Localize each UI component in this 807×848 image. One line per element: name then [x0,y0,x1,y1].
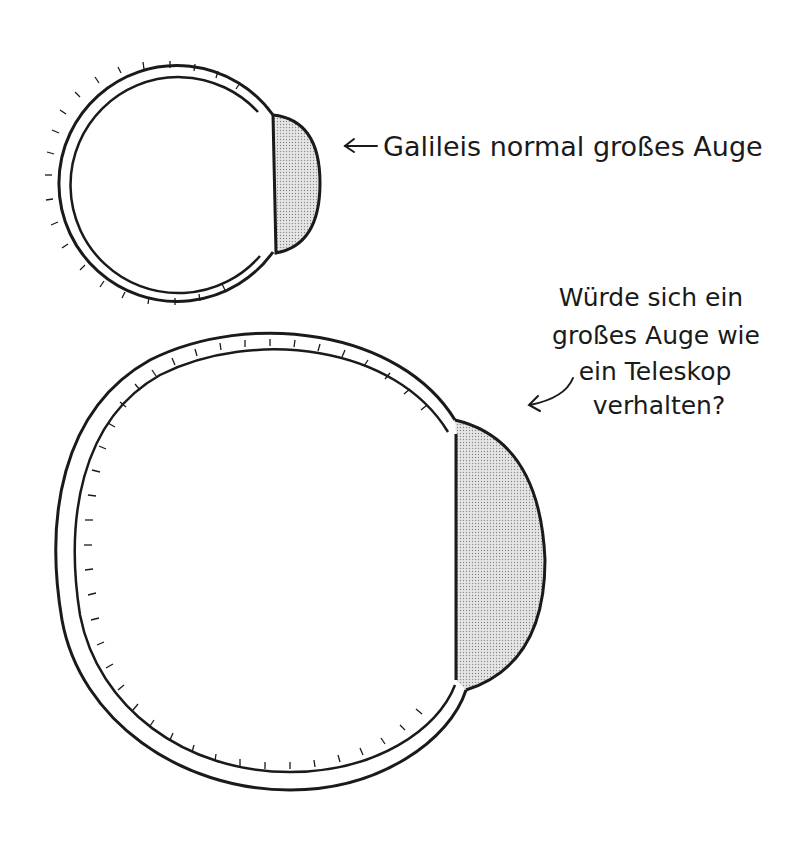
small-eye-ticks [45,61,240,305]
large-eye [56,333,545,790]
large-eye-ticks [84,339,427,769]
small-eye-outer-wall [59,65,273,301]
question-line-1: Würde sich ein [559,283,743,312]
large-eye-annotation: Würde sich ein großes Auge wie ein Teles… [529,283,760,420]
arrow-curved-icon [529,378,573,411]
large-eye-outer-wall [56,333,466,790]
large-eye-cornea [455,420,545,690]
question-line-2: großes Auge wie [552,321,760,350]
arrow-left-icon [345,139,377,152]
eye-comparison-diagram: Galileis normal großes Auge Würde sich e… [0,0,807,848]
small-eye-annotation: Galileis normal großes Auge [345,131,763,162]
large-eye-inner-wall [75,349,455,772]
question-line-3: ein Teleskop [579,357,732,386]
question-line-4: verhalten? [593,391,725,420]
small-eye-cornea [273,115,320,253]
small-eye-inner-wall [71,77,260,293]
small-eye [45,61,320,305]
small-eye-label: Galileis normal großes Auge [383,131,763,162]
